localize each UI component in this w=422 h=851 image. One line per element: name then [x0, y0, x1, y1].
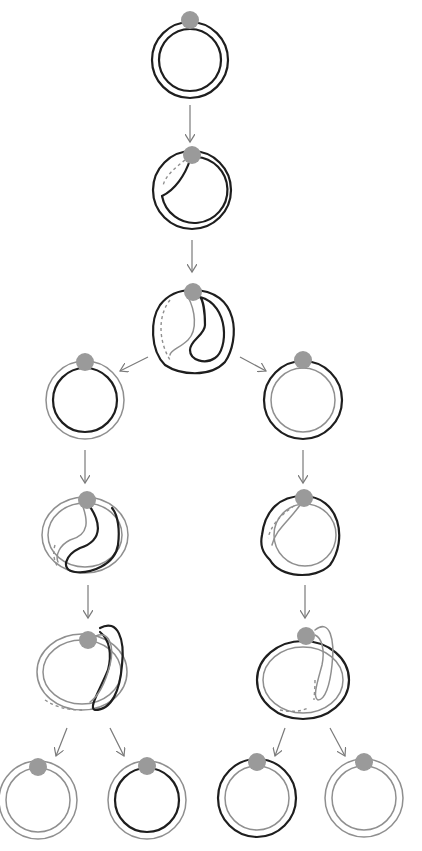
anchor-dot	[355, 753, 373, 771]
anchor-dot	[294, 351, 312, 369]
anchor-dot	[183, 146, 201, 164]
arrow-3-4	[120, 357, 148, 371]
node-1-double-ring	[152, 11, 228, 98]
arrow-9-13	[330, 728, 345, 756]
node-6-S-fold	[42, 491, 128, 573]
node-11-ring-dark-inner	[108, 757, 186, 839]
node-3-deep-fold	[153, 283, 234, 373]
anchor-dot	[248, 753, 266, 771]
anchor-dot	[29, 758, 47, 776]
anchor-dot	[138, 757, 156, 775]
node-12-ring-dark-outer	[218, 753, 296, 837]
node-2-fold-ring	[153, 146, 231, 229]
arrow-8-10	[56, 728, 67, 756]
anchor-dot	[184, 283, 202, 301]
node-13-ring-light	[325, 753, 403, 837]
node-7-fold-ring	[261, 489, 339, 575]
anchor-dot	[181, 11, 199, 29]
arrow-8-11	[110, 728, 124, 756]
node-5-ring-dark-outer	[264, 351, 342, 439]
anchor-dot	[297, 627, 315, 645]
ring-deformation-diagram	[0, 0, 422, 851]
node-9-outer-loop	[257, 627, 349, 719]
anchor-dot	[78, 491, 96, 509]
node-10-ring-light	[0, 758, 77, 839]
anchor-dot	[76, 353, 94, 371]
node-4-ring-light-outer	[46, 353, 124, 439]
arrow-9-12	[275, 728, 285, 756]
anchor-dot	[295, 489, 313, 507]
anchor-dot	[79, 631, 97, 649]
arrow-3-5	[240, 357, 266, 371]
node-8-outer-loop	[37, 626, 127, 710]
